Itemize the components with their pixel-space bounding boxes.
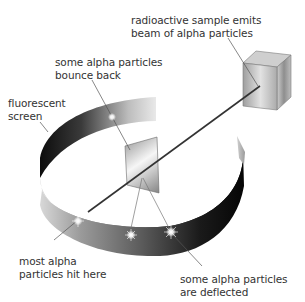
label-bounce-back: some alpha particles bounce back — [55, 56, 162, 82]
radioactive-sample-cube — [243, 51, 291, 110]
label-deflected: some alpha particles are deflected — [180, 273, 287, 299]
screen-right-tip — [237, 136, 245, 165]
label-most-hit-here: most alpha particles hit here — [19, 255, 106, 281]
flash-deflected-2 — [164, 225, 178, 239]
leader-screen — [40, 122, 48, 132]
gold-foil — [125, 137, 159, 193]
flash-bounce-back — [108, 113, 116, 121]
label-fluorescent-screen: fluorescent screen — [8, 97, 66, 123]
label-radioactive-sample: radioactive sample emits beam of alpha p… — [131, 14, 261, 40]
